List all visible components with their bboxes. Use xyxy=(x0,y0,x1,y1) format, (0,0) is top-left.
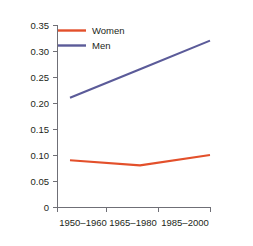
x-tick-label: 1985–2000 xyxy=(161,217,209,228)
x-tick-label: 1950–1960 xyxy=(59,217,107,228)
series-line-women xyxy=(70,155,210,165)
y-tick-label: 0.25 xyxy=(31,72,50,83)
y-tick-label: 0.35 xyxy=(31,20,50,31)
x-tick-labels: 1950–1960 1965–1980 1985–2000 xyxy=(59,217,209,228)
y-tick-label: 0.20 xyxy=(31,98,50,109)
y-tick-label: 0.15 xyxy=(31,124,50,135)
chart-legend: Women Men xyxy=(58,25,125,51)
series-line-men xyxy=(70,41,210,98)
legend-label-women: Women xyxy=(92,25,125,36)
x-tick-label: 1965–1980 xyxy=(109,217,157,228)
chart-plot-area: 0.35 0.30 0.25 0.20 0.15 0.10 0.05 0 195… xyxy=(0,0,253,246)
y-tick-label: 0.05 xyxy=(31,176,50,187)
y-tick-labels: 0.35 0.30 0.25 0.20 0.15 0.10 0.05 0 xyxy=(31,20,50,213)
y-tick-label: 0 xyxy=(44,202,49,213)
line-chart: 0.35 0.30 0.25 0.20 0.15 0.10 0.05 0 195… xyxy=(0,0,253,246)
y-tick-marks xyxy=(53,26,57,208)
y-tick-label: 0.30 xyxy=(31,46,50,57)
legend-label-men: Men xyxy=(92,40,110,51)
y-tick-label: 0.10 xyxy=(31,150,50,161)
